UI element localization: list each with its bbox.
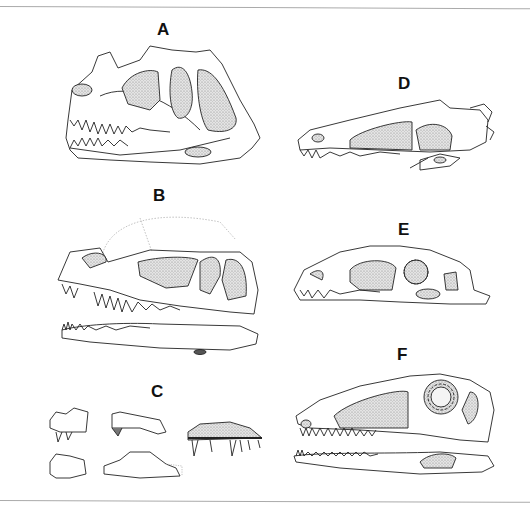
skull-d xyxy=(298,100,494,170)
fragments-c xyxy=(50,408,262,478)
skull-e xyxy=(294,246,490,304)
skull-figure xyxy=(0,0,530,512)
skull-f xyxy=(294,374,494,474)
skull-a xyxy=(66,46,260,164)
skull-b xyxy=(58,217,258,354)
